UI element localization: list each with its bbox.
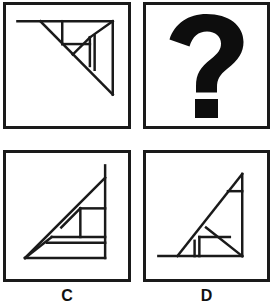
figure-line-inner-diagonal-short <box>73 37 90 54</box>
question-mark-glyph-icon <box>165 14 249 118</box>
option-label-d: D <box>143 287 270 305</box>
panel-d-figure <box>146 153 267 279</box>
puzzle-panel-b-missing[interactable] <box>143 2 270 129</box>
puzzle-grid: C D <box>0 0 273 307</box>
question-mark-icon <box>146 5 267 126</box>
figure-line-inner-diagonal-corner <box>90 21 113 37</box>
puzzle-panel-c[interactable] <box>3 150 131 282</box>
tangram-triangle-upper-right-icon <box>6 5 128 126</box>
panel-a-figure <box>6 5 128 126</box>
puzzle-panel-d[interactable] <box>143 150 270 282</box>
tangram-triangle-lower-right-wide-icon <box>146 153 267 279</box>
figure-line-inner-diagonal-corner <box>25 237 52 258</box>
tangram-triangle-lower-right-icon <box>6 153 128 279</box>
option-label-c: C <box>3 287 131 305</box>
figure-line-inner-diagonal-mid <box>206 227 242 256</box>
panel-c-figure <box>6 153 128 279</box>
figure-line-hypotenuse <box>40 21 112 94</box>
puzzle-panel-a[interactable] <box>3 2 131 129</box>
figure-line-hypotenuse <box>177 174 242 256</box>
figure-line-hypotenuse <box>25 178 105 258</box>
